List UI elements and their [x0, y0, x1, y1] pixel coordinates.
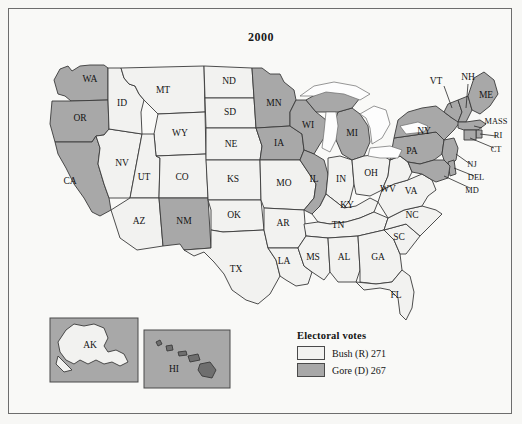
map-legend: Electoral votes Bush (R) 271 Gore (D) 26… — [297, 330, 386, 380]
state-SD[interactable] — [205, 98, 256, 128]
legend-label-bush: Bush (R) 271 — [332, 348, 386, 359]
state-NM[interactable] — [159, 198, 211, 250]
state-ND[interactable] — [204, 66, 254, 98]
leader-NJ — [456, 154, 470, 164]
lake-michigan — [322, 112, 338, 152]
shape-hawaii-maui — [188, 354, 200, 362]
state-WY[interactable] — [154, 112, 206, 156]
legend-title: Electoral votes — [297, 330, 386, 341]
leader-DEL — [454, 168, 474, 176]
legend-entry-gore[interactable]: Gore (D) 267 — [297, 363, 386, 377]
state-MN[interactable] — [252, 68, 296, 128]
state-shapes — [50, 65, 498, 320]
leader-MD — [444, 176, 470, 188]
state-AR[interactable] — [264, 208, 306, 248]
state-label-CT: CT — [491, 145, 502, 154]
state-CO[interactable] — [156, 154, 208, 198]
state-label-NJ: NJ — [467, 160, 477, 169]
state-OK[interactable] — [208, 200, 264, 232]
legend-label-gore: Gore (D) 267 — [332, 365, 386, 376]
state-label-MD: MD — [465, 186, 479, 195]
legend-swatch-bush — [297, 346, 325, 360]
legend-swatch-gore — [297, 363, 325, 377]
state-ME[interactable] — [468, 72, 498, 114]
state-AL[interactable] — [328, 236, 360, 282]
alaska-inset[interactable]: AK — [50, 318, 138, 382]
electoral-map-figure: 2000 — [0, 0, 522, 424]
map-canvas: WA OR CA NV ID MT WY UT AZ CO NM ND SD N… — [8, 8, 512, 414]
state-CT[interactable] — [464, 130, 476, 140]
leader-CT — [470, 138, 494, 148]
shape-hawaii-molokai — [178, 351, 187, 356]
state-label-VT: VT — [430, 76, 443, 86]
state-AZ[interactable] — [111, 198, 163, 250]
state-label-RI: RI — [494, 131, 503, 140]
legend-entry-bush[interactable]: Bush (R) 271 — [297, 346, 386, 360]
state-KS[interactable] — [206, 160, 261, 200]
hawaii-inset[interactable]: HI — [144, 330, 230, 388]
state-WA[interactable] — [54, 65, 108, 101]
state-NE[interactable] — [206, 128, 262, 160]
shape-hawaii-oahu — [166, 345, 173, 351]
state-label-MASS: MASS — [485, 117, 508, 126]
state-IA[interactable] — [256, 126, 304, 160]
